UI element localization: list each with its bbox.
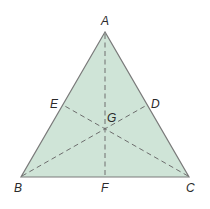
triangle-diagram: A B C D E F G	[0, 0, 210, 209]
label-b: B	[14, 181, 22, 195]
label-g: G	[107, 111, 116, 125]
label-d: D	[151, 97, 160, 111]
diagram-svg: A B C D E F G	[0, 0, 210, 209]
label-c: C	[186, 181, 195, 195]
label-f: F	[101, 181, 109, 195]
label-e: E	[50, 97, 59, 111]
label-a: A	[100, 14, 109, 28]
